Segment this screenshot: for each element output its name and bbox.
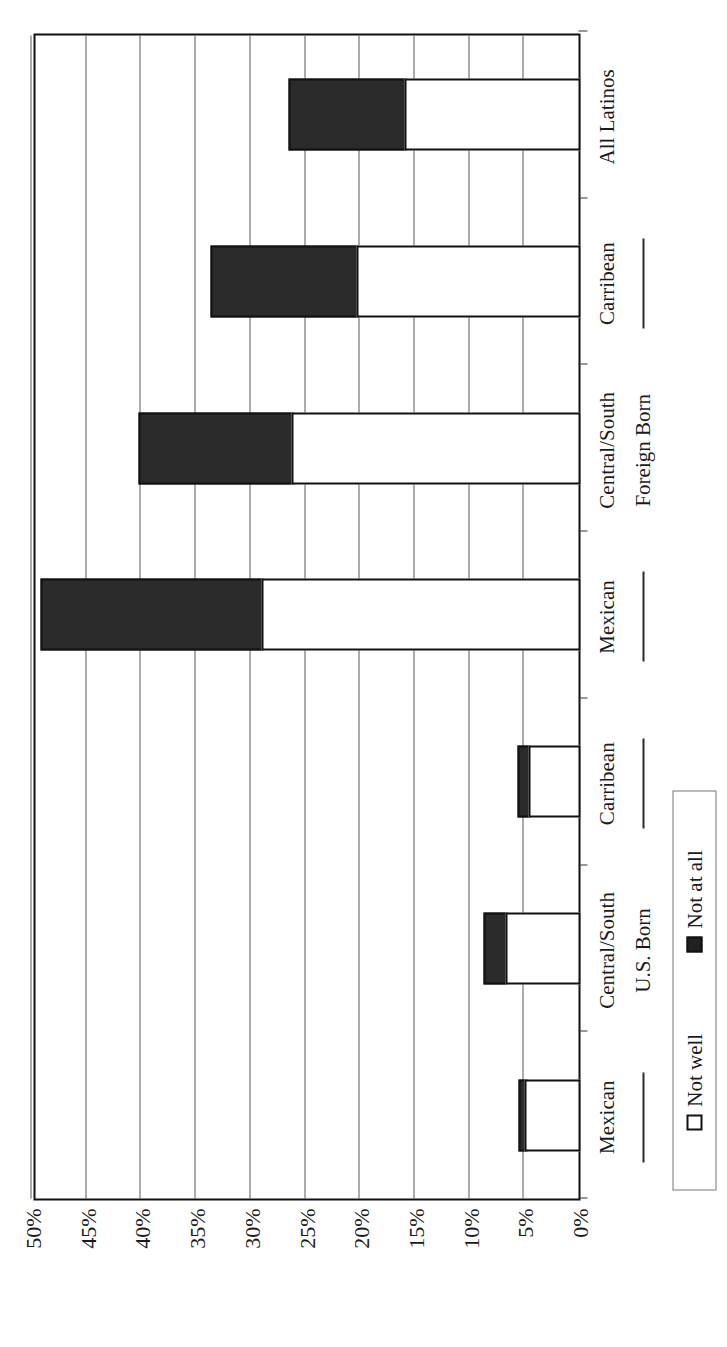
bar-segment-not-at-all [138, 412, 293, 484]
plot-area [33, 33, 580, 1200]
value-tick-label: 35% [186, 1208, 208, 1280]
bar-segment-not-at-all [483, 912, 507, 984]
group-rule [642, 1072, 644, 1162]
group-label: U.S. Born [632, 830, 653, 1070]
category-label: Carribean [596, 693, 617, 873]
bar-stack [483, 912, 578, 984]
chart-legend: Not wellNot at all [672, 790, 716, 1190]
bar-stack [138, 412, 578, 484]
bar-stack [40, 579, 578, 651]
bar-segment-not-at-all [210, 245, 358, 317]
bar-segment-not-at-all [288, 78, 406, 150]
value-tick-label: 30% [241, 1208, 263, 1280]
value-tick-label: 15% [405, 1208, 427, 1280]
category-label: Mexican [596, 1027, 617, 1207]
bar-segment-not-well [524, 1079, 580, 1151]
legend-item[interactable]: Not at all [682, 850, 707, 952]
category-tick [578, 1197, 587, 1198]
bar-stack [288, 78, 578, 150]
value-tick-label: 25% [296, 1208, 318, 1280]
value-tick-label: 10% [460, 1208, 482, 1280]
value-tick-label: 45% [77, 1208, 99, 1280]
category-tick [578, 363, 587, 364]
category-tick [578, 30, 587, 31]
value-tick-label: 5% [514, 1208, 536, 1280]
group-rule [642, 738, 644, 828]
gridline [30, 35, 31, 1198]
value-tick-label: 40% [131, 1208, 153, 1280]
bar-stack [210, 245, 578, 317]
bar-segment-not-well [528, 745, 581, 817]
category-tick [578, 1030, 587, 1031]
category-tick [578, 697, 587, 698]
category-tick [578, 530, 587, 531]
bar-stack [518, 1079, 578, 1151]
category-label: Carribean [596, 193, 617, 373]
bar-stack [517, 745, 578, 817]
value-tick-label: 50% [22, 1208, 44, 1280]
bar-segment-not-well [505, 912, 580, 984]
bar-segment-not-well [291, 412, 580, 484]
legend-label: Not at all [682, 850, 707, 928]
value-tick-label: 20% [350, 1208, 372, 1280]
group-rule [642, 572, 644, 662]
group-rule [642, 238, 644, 328]
category-tick [578, 864, 587, 865]
category-label: Central/South [596, 360, 617, 540]
bar-segment-not-well [261, 579, 580, 651]
chart-canvas: 0%5%10%15%20%25%30%35%40%45%50% MexicanC… [0, 0, 727, 1347]
bar-segment-not-well [404, 78, 580, 150]
legend-item[interactable]: Not well [682, 1033, 707, 1130]
bar-segment-not-at-all [40, 579, 263, 651]
legend-label: Not well [682, 1033, 707, 1106]
category-label: Central/South [596, 860, 617, 1040]
filled-square-icon [686, 936, 702, 952]
category-tick [578, 197, 587, 198]
open-square-icon [686, 1114, 702, 1130]
group-label: Foreign Born [632, 330, 653, 570]
value-tick-label: 0% [569, 1208, 591, 1280]
category-label: Mexican [596, 527, 617, 707]
category-label: All Latinos [596, 26, 617, 206]
bar-segment-not-well [356, 245, 580, 317]
